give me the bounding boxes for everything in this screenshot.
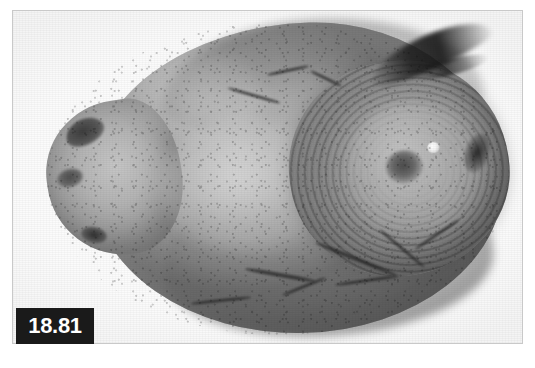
- figure-root: 18.81: [0, 0, 535, 368]
- figure-number-text: 18.81: [28, 315, 82, 337]
- specimen-photograph: [13, 11, 522, 343]
- photographic-plate-frame: [12, 10, 523, 344]
- surface-speckle-texture: [47, 23, 507, 335]
- figure-number-badge: 18.81: [16, 308, 94, 344]
